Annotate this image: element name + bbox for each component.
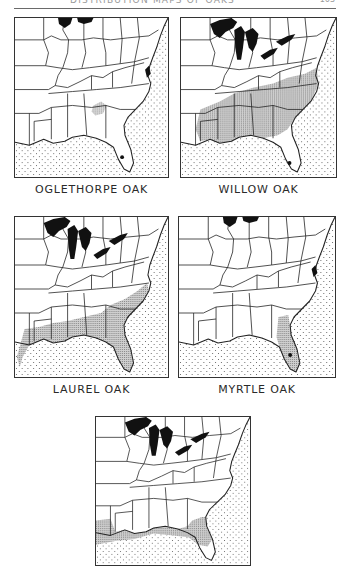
range-map-svg xyxy=(181,18,336,177)
range-map-svg xyxy=(179,217,335,377)
caption-oglethorpe-oak: OGLETHORPE OAK xyxy=(14,183,169,196)
map-laurel-oak xyxy=(14,216,169,378)
running-header: DISTRIBUTION MAPS OF OAKS xyxy=(70,0,235,5)
range-area xyxy=(92,101,107,115)
caption-willow-oak: WILLOW OAK xyxy=(180,183,337,196)
range-map-svg xyxy=(15,18,168,177)
caption-myrtle-oak: MYRTLE OAK xyxy=(178,383,336,396)
range-map-svg xyxy=(15,217,168,377)
caption-laurel-oak: LAUREL OAK xyxy=(14,383,169,396)
map-myrtle-oak xyxy=(178,216,336,378)
map-fifth-oak xyxy=(95,416,251,566)
header-rule xyxy=(14,8,336,9)
map-oglethorpe-oak xyxy=(14,17,169,178)
range-map-svg xyxy=(96,417,250,565)
map-willow-oak xyxy=(180,17,337,178)
page-number: 163 xyxy=(320,0,335,4)
